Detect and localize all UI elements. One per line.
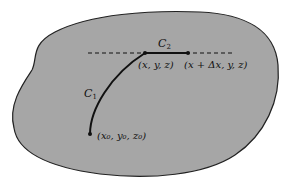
label-point-start: (x₀, y₀, z₀): [97, 130, 146, 141]
point-mid: [143, 51, 147, 55]
point-start: [88, 132, 92, 136]
path-independence-diagram: C2 C1 (x, y, z) (x + Δx, y, z) (x₀, y₀, …: [0, 0, 295, 185]
label-point-mid: (x, y, z): [138, 59, 174, 70]
point-end: [186, 51, 190, 55]
label-point-end: (x + Δx, y, z): [184, 59, 247, 70]
region-blob: [13, 12, 279, 177]
